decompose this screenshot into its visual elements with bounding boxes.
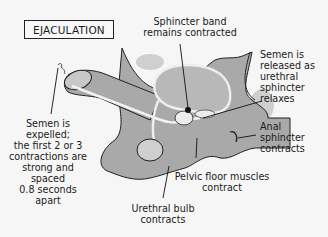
label-pelvic-floor: Pelvic floor muscles contract	[166, 171, 278, 193]
testis	[137, 139, 163, 161]
seminal-vesicle	[195, 110, 215, 118]
expelled-semen	[58, 64, 65, 74]
label-semen-expelled: Semen is expelled; the first 2 or 3 cont…	[0, 118, 96, 206]
label-urethral-bulb: Urethral bulb contracts	[118, 203, 208, 225]
label-sphincter-band: Sphincter band remains contracted	[140, 16, 240, 38]
label-semen-released: Semen is released as urethral sphincter …	[260, 49, 328, 104]
bladder	[154, 65, 230, 113]
prostate	[175, 111, 193, 125]
label-anal-sphincter: Anal sphincter contracts	[260, 121, 328, 154]
